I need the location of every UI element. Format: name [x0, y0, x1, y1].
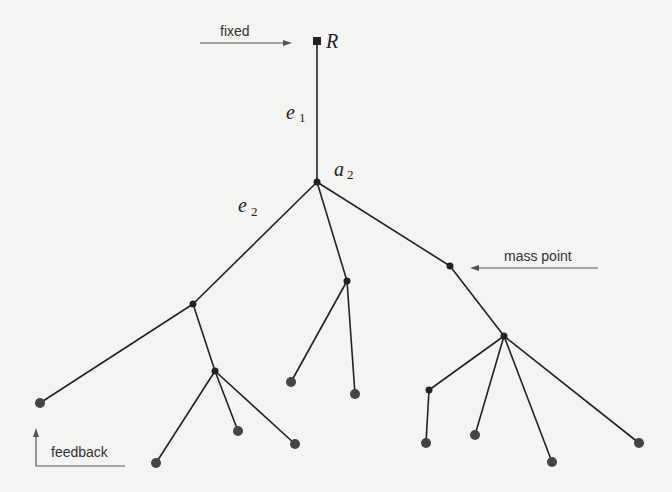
edge	[426, 390, 429, 443]
mass-point-node	[447, 263, 454, 270]
leaf	[233, 426, 243, 436]
leaf	[290, 439, 300, 449]
edge	[450, 266, 504, 336]
node	[190, 301, 197, 308]
edge	[156, 371, 215, 463]
fixed-label: fixed	[220, 23, 250, 39]
e2-subscript: 2	[251, 204, 258, 219]
edge	[291, 281, 347, 382]
edge	[215, 371, 238, 431]
leaf	[421, 438, 431, 448]
edge-e2	[193, 182, 317, 304]
e1-subscript: 1	[299, 110, 306, 125]
root-node	[313, 37, 321, 45]
node-a2	[314, 179, 321, 186]
mass-point-arrow-icon	[470, 265, 598, 271]
feedback-label: feedback	[51, 444, 109, 460]
e1-label: e	[286, 101, 295, 123]
a2-subscript: 2	[347, 167, 354, 182]
a2-label: a	[334, 158, 344, 180]
root-label: R	[325, 30, 338, 52]
leaf	[634, 438, 644, 448]
leaf	[286, 377, 296, 387]
node	[501, 333, 508, 340]
node	[212, 368, 219, 375]
edge	[40, 304, 193, 403]
node	[344, 278, 351, 285]
leaf	[151, 458, 161, 468]
mass-point-label: mass point	[504, 248, 572, 264]
edge	[193, 304, 215, 371]
leaf-nodes	[35, 377, 644, 468]
edge	[475, 336, 504, 435]
leaf	[547, 457, 557, 467]
leaf	[350, 389, 360, 399]
leaf	[470, 430, 480, 440]
tree-diagram: fixed R e 1 a 2 e 2 mass point feedback	[0, 0, 672, 492]
edge	[317, 182, 450, 266]
edge	[347, 281, 355, 394]
leaf	[35, 398, 45, 408]
edge	[215, 371, 295, 444]
edge	[317, 182, 347, 281]
edge	[429, 336, 504, 390]
e2-label: e	[238, 194, 247, 216]
node	[426, 387, 433, 394]
fixed-arrow-icon	[200, 40, 292, 46]
